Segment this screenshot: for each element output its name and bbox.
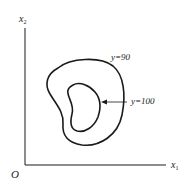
contour-y100 xyxy=(68,84,100,132)
arrowhead-icon xyxy=(101,100,107,105)
contour-label-y100: y=100 xyxy=(131,97,155,106)
contour-label-y90: y=90 xyxy=(111,53,130,62)
x1-axis-label: x1 xyxy=(171,160,178,171)
origin-label: O xyxy=(11,169,19,180)
x1-axis-label-subscript: 1 xyxy=(175,165,178,171)
x2-axis-label-subscript: 2 xyxy=(23,19,26,25)
contour-diagram xyxy=(0,0,190,195)
x2-axis-label: x2 xyxy=(19,14,26,25)
